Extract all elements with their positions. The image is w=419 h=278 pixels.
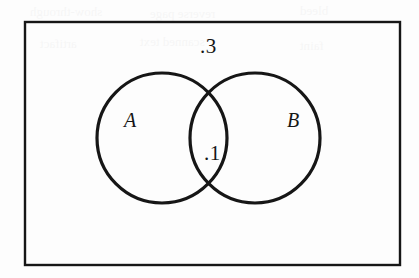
outside-region-probability-label: .3 xyxy=(200,36,217,57)
set-a-label: A xyxy=(124,110,136,130)
venn-diagram-figure: show-through reverse page bleed artifact… xyxy=(0,0,419,278)
set-b-label: B xyxy=(287,110,299,130)
intersection-probability-label: .1 xyxy=(204,143,221,164)
set-b-circle xyxy=(190,73,320,203)
